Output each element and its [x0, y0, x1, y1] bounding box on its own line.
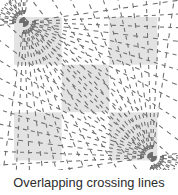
figure-root: Overlapping crossing lines: [0, 0, 178, 195]
figure-caption: Overlapping crossing lines: [0, 170, 178, 195]
pattern-illustration: [0, 0, 178, 170]
pattern-svg: [0, 0, 178, 170]
